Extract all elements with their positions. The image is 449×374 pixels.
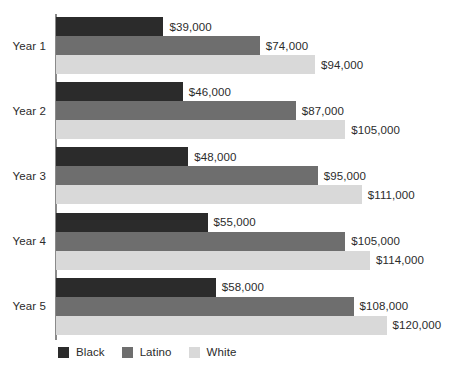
bar-value-label: $108,000 [360,300,409,312]
bar-black [56,278,216,297]
bar-black [56,17,163,36]
bar-value-label: $58,000 [222,281,264,293]
category-label: Year 4 [13,235,46,247]
bar-white [56,251,370,270]
bar-black [56,213,208,232]
bar-row: $111,000 [56,185,444,204]
bar-row: $58,000 [56,278,444,297]
bar-row: $120,000 [56,316,444,335]
bar-row: $105,000 [56,232,444,251]
bar-row: $74,000 [56,36,444,55]
chart-legend: BlackLatinoWhite [58,346,236,358]
category-label: Year 3 [13,170,46,182]
bar-latino [56,166,318,185]
bar-value-label: $74,000 [266,40,308,52]
bar-group: Year 2$46,000$87,000$105,000 [56,82,444,139]
bar-value-label: $105,000 [351,235,400,247]
bar-black [56,147,188,166]
bar-black [56,82,183,101]
bar-value-label: $120,000 [393,319,442,331]
bar-group: Year 3$48,000$95,000$111,000 [56,147,444,204]
bar-row: $55,000 [56,213,444,232]
bar-group: Year 4$55,000$105,000$114,000 [56,213,444,270]
bar-value-label: $46,000 [189,86,231,98]
bar-value-label: $48,000 [194,151,236,163]
bar-row: $46,000 [56,82,444,101]
bar-latino [56,297,354,316]
bar-value-label: $94,000 [321,59,363,71]
legend-item-white[interactable]: White [189,346,237,358]
bar-row: $94,000 [56,55,444,74]
bar-latino [56,232,345,251]
bar-value-label: $105,000 [351,124,400,136]
bar-white [56,120,345,139]
bar-white [56,55,315,74]
legend-label: White [207,346,237,358]
bar-value-label: $95,000 [324,170,366,182]
legend-label: Black [76,346,105,358]
bar-value-label: $55,000 [214,216,256,228]
bar-white [56,316,387,335]
bar-white [56,185,362,204]
bar-row: $95,000 [56,166,444,185]
bar-row: $48,000 [56,147,444,166]
bar-row: $114,000 [56,251,444,270]
legend-swatch-icon [189,347,200,358]
bar-chart: Year 1$39,000$74,000$94,000Year 2$46,000… [0,0,449,374]
bar-row: $105,000 [56,120,444,139]
bar-value-label: $39,000 [169,21,211,33]
bar-row: $108,000 [56,297,444,316]
bar-value-label: $114,000 [376,254,424,266]
bar-group: Year 5$58,000$108,000$120,000 [56,278,444,335]
bar-latino [56,101,296,120]
legend-label: Latino [140,346,172,358]
category-label: Year 2 [13,105,46,117]
legend-item-black[interactable]: Black [58,346,105,358]
bar-group: Year 1$39,000$74,000$94,000 [56,17,444,74]
bar-row: $87,000 [56,101,444,120]
legend-item-latino[interactable]: Latino [122,346,172,358]
plot-area: Year 1$39,000$74,000$94,000Year 2$46,000… [56,14,444,340]
bar-row: $39,000 [56,17,444,36]
legend-swatch-icon [122,347,133,358]
bar-latino [56,36,260,55]
legend-swatch-icon [58,347,69,358]
bar-value-label: $111,000 [368,189,415,201]
category-label: Year 1 [13,40,46,52]
category-label: Year 5 [13,300,46,312]
bar-value-label: $87,000 [302,105,344,117]
